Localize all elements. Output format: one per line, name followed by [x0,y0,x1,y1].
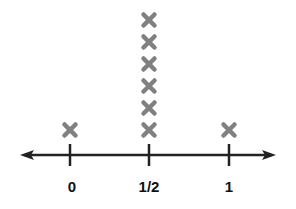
x-marker-icon [65,125,76,136]
tick-label: 1/2 [139,178,160,195]
tick-labels: 01/21 [68,178,233,195]
x-markers [65,15,235,136]
x-marker-icon [144,15,155,26]
tick-label: 1 [225,178,233,195]
x-marker-icon [144,37,155,48]
x-marker-icon [144,103,155,114]
tick-label: 0 [68,178,76,195]
x-marker-icon [144,125,155,136]
x-marker-icon [144,59,155,70]
x-marker-icon [224,125,235,136]
x-marker-icon [144,81,155,92]
line-plot: 01/21 [0,0,296,209]
